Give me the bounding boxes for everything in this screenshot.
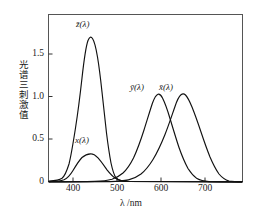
curve-annotation-y-bar: ȳ(λ) bbox=[130, 83, 144, 92]
y-tick-label-1-5: 1.5 bbox=[22, 49, 44, 59]
y-tick-label-0-5: 0.5 bbox=[22, 134, 44, 144]
chart-figure: 0 0.5 1.0 1.5 400 500 600 700 z̄(λ) x(λ)… bbox=[0, 0, 262, 219]
x-axis-title: λ /nm bbox=[0, 198, 262, 208]
x-tick-label-600: 600 bbox=[146, 184, 176, 194]
curve-annotation-x-secondary: x(λ) bbox=[75, 136, 89, 145]
y-tick-label-0: 0 bbox=[22, 177, 44, 187]
curve-annotation-x-bar: x̄(λ) bbox=[159, 83, 173, 92]
curve-annotation-z-bar: z̄(λ) bbox=[76, 20, 89, 29]
x-tick-label-500: 500 bbox=[102, 184, 132, 194]
y-axis-title: 光谱三刺激值 bbox=[14, 60, 28, 120]
x-tick-label-400: 400 bbox=[58, 184, 88, 194]
plot-frame bbox=[49, 15, 243, 182]
x-tick-label-700: 700 bbox=[190, 184, 220, 194]
